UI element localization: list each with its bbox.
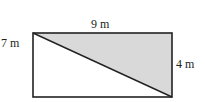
left-side-label: 7 m — [1, 37, 19, 49]
geometry-figure: 9 m 7 m 4 m — [0, 0, 205, 102]
top-side-label: 9 m — [91, 18, 109, 30]
right-side-label: 4 m — [176, 58, 194, 70]
figure-canvas — [0, 0, 205, 102]
